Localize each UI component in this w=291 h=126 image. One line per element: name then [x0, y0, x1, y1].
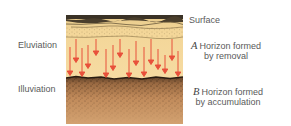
b-horizon-label: BHorizon formed by accumulation	[186, 87, 270, 107]
a-horizon-letter: A	[191, 40, 197, 51]
b-horizon-line2: by accumulation	[186, 97, 270, 107]
b-horizon-line1: Horizon formed	[201, 87, 263, 97]
surface-label: Surface	[189, 15, 220, 25]
soil-profile-diagram	[66, 15, 183, 124]
b-horizon-letter: B	[193, 86, 199, 97]
a-horizon-label: AHorizon formed by removal	[186, 41, 266, 61]
illuviation-label: Illuviation	[18, 84, 56, 94]
eluviation-label: Eluviation	[18, 40, 57, 50]
a-horizon-line1: Horizon formed	[199, 41, 261, 51]
a-horizon-line2: by removal	[186, 51, 266, 61]
